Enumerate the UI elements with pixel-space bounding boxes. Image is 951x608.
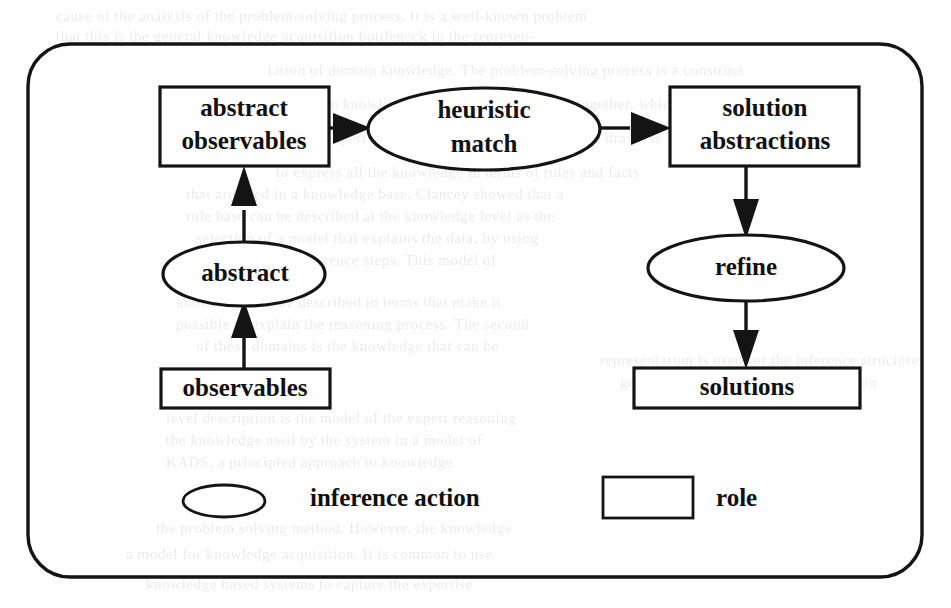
figure-page: cause of the analysis of the problem-sol… (0, 0, 951, 608)
node-abstract-label: abstract (201, 259, 289, 286)
node-abstract-observables-label-line1: abstract (200, 94, 288, 121)
node-refine[interactable]: refine (648, 235, 844, 301)
node-heuristic-match-label-line1: heuristic (437, 96, 530, 123)
node-solution-abstractions-label-line1: solution (723, 94, 808, 121)
node-abstract[interactable]: abstract (163, 242, 325, 306)
node-heuristic-match-label-line2: match (451, 130, 518, 157)
legend-inference-action-label: inference action (310, 484, 480, 511)
node-observables[interactable]: observables (161, 369, 330, 408)
node-abstract-observables-label-line2: observables (182, 127, 307, 154)
node-solution-abstractions[interactable]: solution abstractions (670, 87, 859, 166)
edge-refine-to-solutions (733, 300, 759, 369)
edge-solution-abstractions-to-refine (733, 166, 759, 239)
legend-role: role (603, 477, 757, 518)
node-solution-abstractions-label-line2: abstractions (700, 127, 831, 154)
node-refine-label: refine (715, 253, 777, 280)
heuristic-classification-diagram: abstract observables solution abstractio… (0, 0, 951, 608)
node-solutions[interactable]: solutions (634, 368, 860, 408)
legend: inference action role (183, 477, 757, 518)
legend-inference-action: inference action (183, 484, 480, 517)
node-observables-label: observables (183, 374, 308, 401)
node-abstract-observables[interactable]: abstract observables (160, 87, 329, 166)
edge-abstract-observables-to-heuristic-match (329, 113, 371, 144)
edge-observables-to-abstract (231, 300, 257, 369)
legend-role-label: role (716, 484, 757, 511)
edge-abstract-to-abstract-observables (231, 166, 257, 242)
node-solutions-label: solutions (700, 373, 795, 400)
edge-heuristic-match-to-solution-abstractions (600, 112, 671, 145)
node-heuristic-match[interactable]: heuristic match (368, 88, 600, 170)
